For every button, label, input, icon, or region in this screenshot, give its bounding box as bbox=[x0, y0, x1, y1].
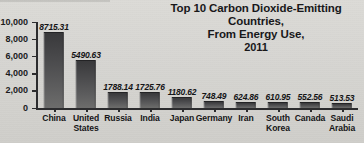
bar-value-label: 610.95 bbox=[266, 92, 291, 102]
bar-series: 8715.31China5490.63United States1788.14R… bbox=[38, 22, 358, 108]
bar-group: 552.56Canada bbox=[294, 22, 326, 108]
bar[interactable] bbox=[76, 60, 96, 108]
y-axis-labels: 02,0004,0006,0008,00010,000 bbox=[0, 22, 34, 110]
x-axis-category-label: Saudi Arabia bbox=[319, 114, 364, 133]
bar[interactable] bbox=[204, 101, 224, 108]
bar-value-label: 513.53 bbox=[330, 93, 355, 103]
y-axis-tick-label: 10,000 bbox=[0, 18, 28, 27]
plot-area: 8715.31China5490.63United States1788.14R… bbox=[36, 22, 358, 108]
y-axis-tick-label: 6,000 bbox=[5, 52, 28, 61]
x-axis-tick bbox=[214, 108, 216, 112]
bar[interactable] bbox=[140, 92, 160, 108]
bar[interactable] bbox=[108, 92, 128, 108]
bar-group: 1788.14Russia bbox=[102, 22, 134, 108]
y-axis-tick-label: 4,000 bbox=[5, 69, 28, 78]
bar-group: 748.49Germany bbox=[198, 22, 230, 108]
x-axis-tick bbox=[310, 108, 312, 112]
x-axis-tick bbox=[118, 108, 120, 112]
x-axis-tick bbox=[150, 108, 152, 112]
bar-group: 610.95South Korea bbox=[262, 22, 294, 108]
bar-group: 513.53Saudi Arabia bbox=[326, 22, 358, 108]
x-axis-tick bbox=[278, 108, 280, 112]
y-axis-tick-label: 2,000 bbox=[5, 86, 28, 95]
bar-group: 5490.63United States bbox=[70, 22, 102, 108]
x-axis-tick bbox=[86, 108, 88, 112]
bar-value-label: 552.56 bbox=[298, 92, 323, 102]
bar-group: 624.86Iran bbox=[230, 22, 262, 108]
bar-value-label: 748.49 bbox=[202, 91, 227, 101]
bar-group: 1725.76India bbox=[134, 22, 166, 108]
bar[interactable] bbox=[172, 97, 192, 108]
bar-group: 8715.31China bbox=[38, 22, 70, 108]
bar-value-label: 8715.31 bbox=[39, 22, 68, 32]
bar-value-label: 5490.63 bbox=[71, 50, 100, 60]
y-axis-tick-label: 0 bbox=[23, 104, 28, 113]
x-axis-tick bbox=[54, 108, 56, 112]
chart-container: Top 10 Carbon Dioxide-Emitting Countries… bbox=[0, 0, 364, 143]
bar[interactable] bbox=[44, 32, 64, 108]
bar-value-label: 624.86 bbox=[234, 92, 259, 102]
x-axis-tick bbox=[246, 108, 248, 112]
bar-value-label: 1788.14 bbox=[103, 82, 132, 92]
bar-group: 1180.62Japan bbox=[166, 22, 198, 108]
y-axis-tick-label: 8,000 bbox=[5, 35, 28, 44]
bar-value-label: 1725.76 bbox=[135, 82, 164, 92]
x-axis-tick bbox=[182, 108, 184, 112]
x-axis-tick bbox=[342, 108, 344, 112]
bar-value-label: 1180.62 bbox=[168, 87, 197, 97]
